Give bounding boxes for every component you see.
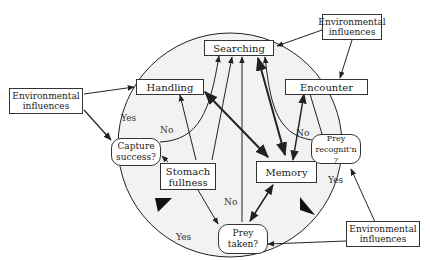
node-env-left: Environmental influences [9,88,83,114]
label-no-capture: No [160,125,173,135]
label-yes-capture: Yes [121,113,136,123]
edge-env-top-encounter [340,40,352,78]
node-handling: Handling [136,79,204,95]
node-memory: Memory [256,161,317,183]
node-env-top: Environmental influences [322,14,382,40]
edge-env-bottom-recognition [351,169,375,222]
node-env-bottom: Environmental influences [346,221,420,247]
node-prey-taken: Prey taken? [218,224,268,254]
node-encounter: Encounter [285,79,368,95]
edge-env-top-searching [277,30,322,46]
node-capture-success: Capture success? [111,138,161,166]
label-no-taken: No [224,197,237,207]
node-searching: Searching [204,40,274,56]
label-yes-recognition: Yes [328,175,343,185]
edge-env-left-handling [84,87,134,94]
node-prey-recognition: Prey recognit'n ? [311,134,361,164]
node-stomach-fullness: Stomach fullness [160,163,216,190]
label-no-recognition: No [296,128,309,138]
edge-env-left-capture [84,110,111,140]
label-yes-taken: Yes [176,232,191,242]
